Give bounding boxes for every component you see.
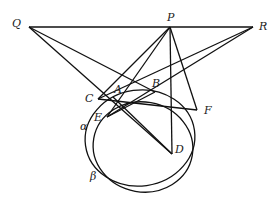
- point-label-B: B: [151, 77, 160, 90]
- point-label-P: P: [166, 11, 175, 24]
- circle-label-beta: β: [89, 170, 96, 183]
- segment-PD: [170, 27, 172, 154]
- point-label-F: F: [203, 104, 212, 117]
- diagram-canvas: αβ QPRABCDEF: [0, 0, 278, 200]
- geometry-diagram: αβ QPRABCDEF: [0, 0, 278, 200]
- point-label-C: C: [85, 92, 94, 105]
- segment-PF: [170, 27, 197, 110]
- point-label-D: D: [174, 143, 184, 156]
- point-label-A: A: [113, 83, 122, 96]
- segment-AD: [113, 97, 172, 154]
- point-label-E: E: [93, 111, 102, 124]
- point-label-Q: Q: [12, 17, 21, 30]
- point-label-R: R: [258, 20, 267, 33]
- circle-label-alpha: α: [80, 120, 88, 133]
